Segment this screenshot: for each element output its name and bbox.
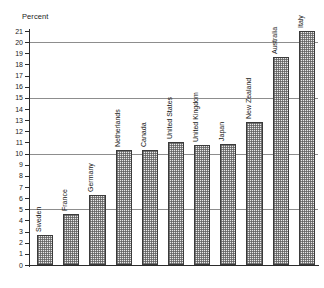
y-tick-label: 12 [8, 128, 23, 135]
bar-category-label: Sweden [35, 207, 42, 232]
y-tick-label: 6 [8, 195, 23, 202]
bar-group: Australia [273, 31, 289, 265]
bar-group: Canada [142, 31, 158, 265]
bar-group: Japan [220, 31, 236, 265]
bar[interactable] [168, 142, 184, 265]
bar-category-label: Canada [140, 123, 147, 148]
y-tick-label: 11 [8, 139, 23, 146]
y-tick-label: 7 [8, 184, 23, 191]
bar[interactable] [142, 150, 158, 265]
y-tick-label: 13 [8, 117, 23, 124]
bar-category-label: Australia [271, 26, 278, 53]
bar-category-label: Japan [218, 121, 225, 140]
y-tick-label: 5 [8, 206, 23, 213]
y-tick-label: 17 [8, 72, 23, 79]
bar-group: France [63, 31, 79, 265]
bar-chart: Percent 01234567891011121314151617181920… [0, 0, 324, 288]
bar-category-label: United States [166, 97, 173, 139]
bar-group: Netherlands [116, 31, 132, 265]
y-axis-label: Percent [22, 12, 49, 21]
bar-category-label: New Zealand [245, 78, 252, 119]
y-tick-label: 9 [8, 161, 23, 168]
bar-group: United Kingdom [194, 31, 210, 265]
bar[interactable] [37, 235, 53, 265]
bar-group: Italy [299, 31, 315, 265]
y-tick-mark [25, 265, 30, 266]
y-tick-label: 15 [8, 94, 23, 101]
y-tick-label: 21 [8, 28, 23, 35]
bar-category-label: Italy [297, 15, 304, 28]
bar[interactable] [116, 150, 132, 265]
bar[interactable] [246, 122, 262, 265]
bar-category-label: United Kingdom [192, 92, 199, 142]
bar-category-label: France [61, 189, 68, 211]
bar-group: Germany [89, 31, 105, 265]
x-axis-line [29, 265, 319, 266]
y-tick-label: 16 [8, 83, 23, 90]
y-tick-label: 3 [8, 228, 23, 235]
y-tick-label: 2 [8, 239, 23, 246]
bar-category-label: Netherlands [114, 109, 121, 147]
y-tick-label: 19 [8, 50, 23, 57]
y-tick-label: 10 [8, 150, 23, 157]
bar[interactable] [273, 57, 289, 265]
bar-group: New Zealand [246, 31, 262, 265]
bar-group: Sweden [37, 31, 53, 265]
y-tick-label: 20 [8, 39, 23, 46]
bar[interactable] [194, 145, 210, 265]
y-tick-label: 8 [8, 172, 23, 179]
plot-area: SwedenFranceGermanyNetherlandsCanadaUnit… [30, 31, 318, 265]
y-tick-label: 1 [8, 250, 23, 257]
bar-group: United States [168, 31, 184, 265]
bar[interactable] [220, 144, 236, 265]
y-tick-label: 0 [8, 262, 23, 269]
bar-category-label: Germany [87, 163, 94, 192]
bar[interactable] [299, 31, 315, 265]
bar[interactable] [89, 195, 105, 265]
y-tick-label: 18 [8, 61, 23, 68]
y-tick-label: 14 [8, 106, 23, 113]
bar[interactable] [63, 214, 79, 265]
y-tick-label: 4 [8, 217, 23, 224]
